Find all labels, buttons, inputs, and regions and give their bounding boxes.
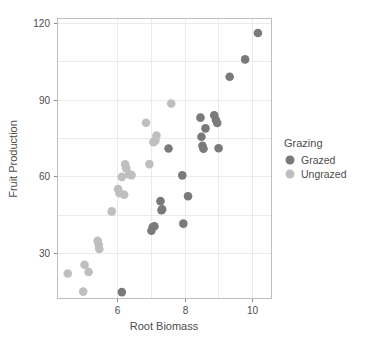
data-point xyxy=(179,219,188,228)
data-point xyxy=(197,132,206,141)
x-tick-label: 6 xyxy=(115,305,121,316)
data-point xyxy=(164,144,173,153)
data-point xyxy=(118,173,127,182)
data-point xyxy=(184,192,193,201)
y-axis-title: Fruit Production xyxy=(7,120,19,198)
data-point xyxy=(84,268,93,277)
data-point xyxy=(178,171,187,180)
data-point xyxy=(158,205,167,214)
data-point xyxy=(196,113,205,122)
data-point xyxy=(118,288,127,297)
scatter-plot-figure: 6810306090120 Root Biomass Fruit Product… xyxy=(0,0,368,347)
data-point xyxy=(167,99,176,108)
plot-panel-background xyxy=(57,18,272,299)
data-point xyxy=(199,144,208,153)
legend-item-ungrazed[interactable]: Ungrazed xyxy=(286,168,347,180)
legend-label-ungrazed: Ungrazed xyxy=(301,168,347,180)
y-tick-label: 30 xyxy=(39,248,51,259)
legend: Grazing Grazed Ungrazed xyxy=(284,137,347,180)
data-point xyxy=(241,55,250,64)
legend-swatch-grazed-icon xyxy=(286,156,295,165)
chart-canvas: 6810306090120 Root Biomass Fruit Product… xyxy=(0,0,368,347)
data-point xyxy=(145,160,154,169)
y-tick-label: 90 xyxy=(39,95,51,106)
data-point xyxy=(63,269,72,278)
data-point xyxy=(107,207,116,216)
data-point xyxy=(213,119,222,128)
data-point xyxy=(201,124,210,133)
legend-label-grazed: Grazed xyxy=(301,154,336,166)
data-point xyxy=(79,287,88,296)
data-point xyxy=(156,197,165,206)
legend-swatch-ungrazed-icon xyxy=(286,170,295,179)
y-tick-label: 60 xyxy=(39,171,51,182)
data-point xyxy=(214,144,223,153)
legend-item-grazed[interactable]: Grazed xyxy=(286,154,336,166)
legend-title: Grazing xyxy=(284,137,323,149)
data-point xyxy=(150,222,159,231)
data-point xyxy=(152,131,161,140)
data-point xyxy=(127,171,136,180)
x-tick-label: 10 xyxy=(247,305,259,316)
data-point xyxy=(95,245,104,254)
x-tick-label: 8 xyxy=(183,305,189,316)
data-point xyxy=(254,29,263,38)
data-point xyxy=(225,72,234,81)
x-axis-title: Root Biomass xyxy=(130,320,199,332)
data-point xyxy=(120,190,129,199)
data-point xyxy=(142,118,151,127)
y-tick-label: 120 xyxy=(33,18,50,29)
